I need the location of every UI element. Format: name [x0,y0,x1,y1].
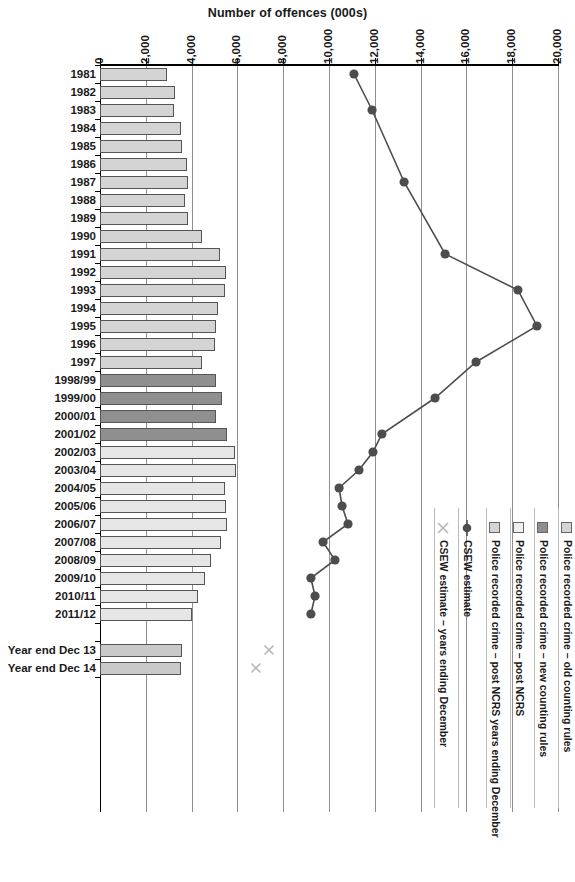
legend-divider [534,508,535,808]
x-axis-tick-label: 8,000 [276,35,288,64]
y-axis-category-label: 2006/07 [0,515,96,533]
bar [100,500,226,513]
chart-row: 1985 [0,137,575,155]
bar [100,122,181,135]
bar [100,266,226,279]
y-axis-category-label: 1981 [0,65,96,83]
y-axis-tick [95,515,100,516]
chart-row: 1991 [0,245,575,263]
y-axis-tick [95,353,100,354]
bar [100,590,198,603]
x-axis-tick-label: 16,000 [459,29,471,64]
legend-item[interactable]: Police recorded crime – post NCRS [510,500,530,830]
y-axis-category-label: 2003/04 [0,461,96,479]
y-axis-category-label: 1986 [0,155,96,173]
bar [100,194,185,207]
chart-row: 1992 [0,263,575,281]
bar [100,86,175,99]
y-axis-tick [95,155,100,156]
legend-label: Police recorded crime – new counting rul… [538,540,550,757]
bar [100,392,222,405]
chart-row: 1988 [0,191,575,209]
y-axis-tick [95,335,100,336]
y-axis-category-label: 1998/99 [0,371,96,389]
chart-row: 1996 [0,335,575,353]
chart-row: 2003/04 [0,461,575,479]
y-axis-tick [95,245,100,246]
y-axis-tick [95,299,100,300]
x-axis-tick-label: 14,000 [414,29,426,64]
y-axis-tick [95,533,100,534]
legend-label: Police recorded crime – old counting rul… [562,540,574,752]
y-axis-category-label: 2002/03 [0,443,96,461]
bar [100,374,216,387]
chart-row: 1989 [0,209,575,227]
chart-row: 1986 [0,155,575,173]
legend-divider [458,508,459,808]
legend-swatch-icon [537,522,548,533]
y-axis-tick [95,569,100,570]
y-axis-tick [95,137,100,138]
y-axis-category-label: 1988 [0,191,96,209]
y-axis-category-label: 1982 [0,83,96,101]
legend-item[interactable]: Police recorded crime – new counting rul… [534,500,554,830]
y-axis-tick [95,191,100,192]
y-axis-tick [95,209,100,210]
y-axis-category-label: 2007/08 [0,533,96,551]
bar [100,518,227,531]
y-axis-category-label: 1984 [0,119,96,137]
y-axis-tick [95,317,100,318]
y-axis-category-label: 2004/05 [0,479,96,497]
legend-item[interactable]: CSEW estimate [458,500,478,830]
bar [100,482,225,495]
bar [100,662,181,675]
x-axis-tick-label: 18,000 [505,29,517,64]
bar [100,464,236,477]
y-axis-tick [95,101,100,102]
legend-swatch-icon [561,522,572,533]
y-axis-tick [95,227,100,228]
x-axis-tick-label: 20,000 [551,29,563,64]
legend-label: Police recorded crime – post NCRS years … [490,540,502,838]
y-axis-category-label: 1985 [0,137,96,155]
legend-cross-icon [436,520,450,536]
legend-item[interactable]: CSEW estimate – years ending December [434,500,454,830]
y-axis-tick [95,479,100,480]
legend-label: CSEW estimate – years ending December [438,540,450,747]
y-axis-tick [95,605,100,606]
legend-item[interactable]: Police recorded crime – old counting rul… [558,500,575,830]
chart-row: 2001/02 [0,425,575,443]
y-axis-tick [95,65,100,66]
legend-item[interactable]: Police recorded crime – post NCRS years … [486,500,506,830]
y-axis-tick [95,281,100,282]
chart-row: 1997 [0,353,575,371]
legend-dot-icon [460,520,474,536]
bar [100,248,220,261]
y-axis-category-label: 2010/11 [0,587,96,605]
bar [100,140,182,153]
legend-divider [434,508,435,808]
y-axis-tick [95,389,100,390]
legend-swatch-icon [489,522,500,533]
y-axis-category-label: 1997 [0,353,96,371]
chart-row: 1995 [0,317,575,335]
chart-row: 1983 [0,101,575,119]
y-axis-tick [95,425,100,426]
bar [100,338,215,351]
crime-statistics-chart: Number of offences (000s) 02,0004,0006,0… [0,0,575,882]
y-axis-category-label: 2008/09 [0,551,96,569]
y-axis-tick [95,119,100,120]
y-axis-tick [95,371,100,372]
y-axis-tick [95,461,100,462]
chart-row: 2000/01 [0,407,575,425]
bar [100,284,225,297]
bar [100,608,192,621]
x-axis-tick-label: 4,000 [185,35,197,64]
y-axis-category-label: 1990 [0,227,96,245]
chart-row: 1987 [0,173,575,191]
bar [100,158,187,171]
x-axis-tick-label: 6,000 [230,35,242,64]
y-axis-tick [95,263,100,264]
bar [100,428,227,441]
y-axis-category-label: Year end Dec 13 [0,641,96,659]
